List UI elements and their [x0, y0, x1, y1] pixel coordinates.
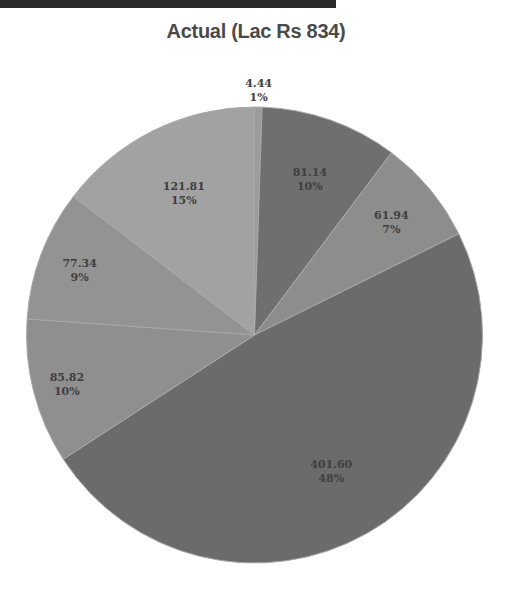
- slice-percent-label: 10%: [54, 385, 80, 398]
- slice-value-label: 121.81: [163, 180, 205, 193]
- slice-percent-label: 48%: [318, 472, 344, 485]
- slice-value-label: 401.60: [310, 458, 352, 471]
- slice-value-label: 77.34: [62, 257, 97, 270]
- slice-percent-label: 7%: [382, 223, 401, 236]
- slice-value-label: 4.44: [245, 77, 272, 90]
- slice-percent-label: 9%: [71, 271, 90, 284]
- slice-value-label: 61.94: [374, 209, 409, 222]
- slice-percent-label: 10%: [297, 180, 323, 193]
- slice-percent-label: 1%: [250, 91, 269, 104]
- pie-chart: 4.441%81.1410%61.947%401.6048%85.8210%77…: [0, 0, 512, 601]
- slice-percent-label: 15%: [171, 194, 197, 207]
- slice-value-label: 81.14: [293, 166, 328, 179]
- slice-value-label: 85.82: [50, 371, 84, 384]
